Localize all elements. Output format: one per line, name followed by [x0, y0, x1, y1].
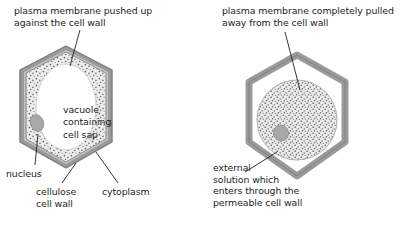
label-nucleus: nucleus: [6, 168, 66, 180]
caption-plasma-membrane-pushed-up: plasma membrane pushed up against the ce…: [14, 5, 204, 28]
label-cytoplasm: cytoplasm: [102, 186, 182, 198]
diagram-canvas: plasma membrane pushed up against the ce…: [0, 0, 414, 235]
label-vacuole-containing-cell-sap: vacuole containing cell sap: [63, 104, 137, 141]
label-external-solution: external solution which enters through t…: [213, 162, 343, 208]
caption-plasma-membrane-pulled-away: plasma membrane completely pulled away f…: [222, 5, 412, 28]
label-cellulose-cell-wall: cellulose cell wall: [36, 186, 112, 209]
